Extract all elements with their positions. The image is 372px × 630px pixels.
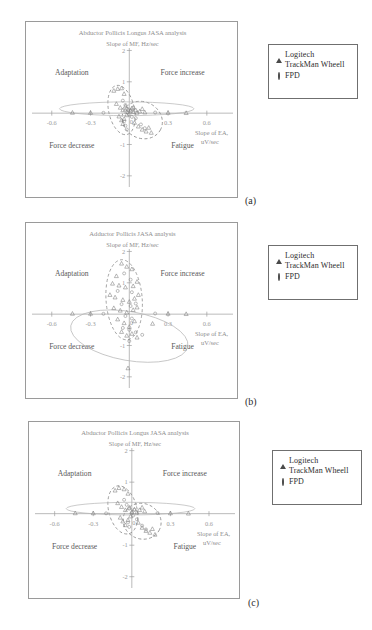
svg-text:Adaptation: Adaptation xyxy=(58,469,92,478)
circle-marker-icon xyxy=(274,71,283,81)
svg-text:1: 1 xyxy=(122,279,125,286)
legend-item-fpd: FPD xyxy=(274,272,351,282)
svg-text:0.6: 0.6 xyxy=(203,119,211,126)
legend-item-fpd: FPD xyxy=(278,477,355,487)
legend-label-logitech-line1: Logitech xyxy=(285,50,314,59)
svg-text:uV/sec: uV/sec xyxy=(201,138,219,145)
svg-text:2: 2 xyxy=(125,447,128,454)
legend-item-logitech: Logitech TrackMan Wheell xyxy=(274,50,351,69)
svg-text:Slope of MF, Hz/sec: Slope of MF, Hz/sec xyxy=(106,40,159,47)
svg-text:-1: -1 xyxy=(120,342,125,349)
svg-text:Slope of MF, Hz/sec: Slope of MF, Hz/sec xyxy=(109,440,162,447)
svg-text:Adaptation: Adaptation xyxy=(55,269,89,278)
plot-frame-c: Abductor Pollicis Longus JASA analysisSl… xyxy=(28,421,240,599)
svg-text:Fatigue: Fatigue xyxy=(171,342,194,351)
legend-label-fpd: FPD xyxy=(285,272,300,282)
svg-text:Abductor Pollicis Longus JASA: Abductor Pollicis Longus JASA analysis xyxy=(81,429,189,436)
legend-label-fpd: FPD xyxy=(289,477,304,487)
svg-text:0.6: 0.6 xyxy=(203,320,211,327)
svg-text:uV/sec: uV/sec xyxy=(203,539,221,546)
svg-text:2: 2 xyxy=(122,47,125,54)
triangle-marker-icon xyxy=(274,251,283,261)
svg-text:0.6: 0.6 xyxy=(205,520,213,527)
panel-caption-a: (a) xyxy=(245,195,256,206)
svg-text:Slope of EA,: Slope of EA, xyxy=(197,530,231,537)
svg-text:Slope of EA,: Slope of EA, xyxy=(195,330,229,337)
svg-text:Fatigue: Fatigue xyxy=(173,542,196,551)
plot-frame-a: Abductor Pollicis Longus JASA analysisSl… xyxy=(25,21,238,198)
legend-item-logitech: Logitech TrackMan Wheell xyxy=(274,251,351,270)
legend-label-fpd: FPD xyxy=(285,71,300,81)
legend-label-logitech-line2: TrackMan Wheell xyxy=(285,261,345,270)
svg-text:0.3: 0.3 xyxy=(164,320,172,327)
svg-text:-0.6: -0.6 xyxy=(47,320,57,327)
svg-text:2: 2 xyxy=(122,248,125,255)
svg-text:-0.6: -0.6 xyxy=(47,119,57,126)
triangle-marker-icon xyxy=(274,50,283,60)
legend-box-b: Logitech TrackMan Wheell FPD xyxy=(268,245,358,300)
svg-text:-0.3: -0.3 xyxy=(85,320,95,327)
circle-marker-icon xyxy=(274,272,283,282)
svg-text:Abductor Pollicis Longus JASA: Abductor Pollicis Longus JASA analysis xyxy=(79,29,187,36)
svg-text:Slope of EA,: Slope of EA, xyxy=(195,129,229,136)
jasa-scatter-a: Abductor Pollicis Longus JASA analysisSl… xyxy=(26,22,239,199)
legend-box-a: Logitech TrackMan Wheell FPD xyxy=(268,44,358,99)
svg-text:Force decrease: Force decrease xyxy=(52,542,98,551)
svg-text:0.3: 0.3 xyxy=(166,520,174,527)
svg-text:-0.3: -0.3 xyxy=(88,520,98,527)
legend-label-logitech-line2: TrackMan Wheell xyxy=(289,466,349,475)
svg-text:Adaptation: Adaptation xyxy=(55,68,89,77)
legend-box-c: Logitech TrackMan Wheell FPD xyxy=(272,450,362,505)
svg-text:-1: -1 xyxy=(120,141,125,148)
legend-item-fpd: FPD xyxy=(274,71,351,81)
jasa-scatter-b: Adductor Pollicis JASA analysisSlope of … xyxy=(26,223,239,400)
triangle-marker-icon xyxy=(278,456,287,466)
svg-text:Fatigue: Fatigue xyxy=(171,141,194,150)
jasa-scatter-c: Abductor Pollicis Longus JASA analysisSl… xyxy=(29,422,241,600)
svg-text:Force decrease: Force decrease xyxy=(49,342,95,351)
svg-text:Force decrease: Force decrease xyxy=(49,141,95,150)
svg-text:-2: -2 xyxy=(122,573,127,580)
svg-text:uV/sec: uV/sec xyxy=(201,339,219,346)
svg-text:1: 1 xyxy=(125,478,128,485)
plot-frame-b: Adductor Pollicis JASA analysisSlope of … xyxy=(25,222,238,399)
svg-text:0.3: 0.3 xyxy=(164,119,172,126)
svg-text:1: 1 xyxy=(122,78,125,85)
circle-marker-icon xyxy=(278,477,287,487)
legend-label-logitech-line1: Logitech xyxy=(285,251,314,260)
panel-caption-b: (b) xyxy=(245,396,257,407)
svg-text:Force increase: Force increase xyxy=(163,469,208,478)
svg-text:0: 0 xyxy=(132,519,135,526)
legend-item-logitech: Logitech TrackMan Wheell xyxy=(278,456,355,475)
svg-text:-1: -1 xyxy=(122,541,127,548)
svg-text:Force increase: Force increase xyxy=(161,269,206,278)
svg-text:-2: -2 xyxy=(120,373,125,380)
svg-text:Adductor Pollicis JASA analysi: Adductor Pollicis JASA analysis xyxy=(89,230,176,237)
legend-label-logitech-line2: TrackMan Wheell xyxy=(285,60,345,69)
svg-text:-0.6: -0.6 xyxy=(50,520,60,527)
svg-text:-0.3: -0.3 xyxy=(85,119,95,126)
svg-text:Slope of MF, Hz/sec: Slope of MF, Hz/sec xyxy=(106,241,159,248)
panel-caption-c: (c) xyxy=(248,597,259,608)
legend-label-logitech-line1: Logitech xyxy=(289,456,318,465)
svg-text:-2: -2 xyxy=(120,172,125,179)
svg-text:Force increase: Force increase xyxy=(161,68,206,77)
